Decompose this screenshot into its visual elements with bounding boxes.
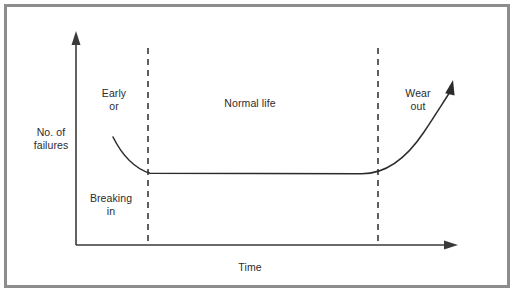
region-label-normal-life: Normal life — [202, 97, 298, 110]
region-label-breaking-in: Breaking in — [78, 192, 144, 217]
x-axis-label: Time — [202, 261, 298, 274]
x-axis-arrow-icon — [444, 241, 458, 250]
figure-root: No. of failures Early or Breaking in Nor… — [0, 0, 518, 296]
y-axis-arrow-icon — [72, 31, 81, 45]
wear-out-arrow-icon — [445, 80, 454, 96]
region-label-wear-out: Wear out — [392, 87, 444, 112]
y-axis-label: No. of failures — [20, 126, 82, 151]
region-label-early-life: Early or — [86, 87, 142, 112]
